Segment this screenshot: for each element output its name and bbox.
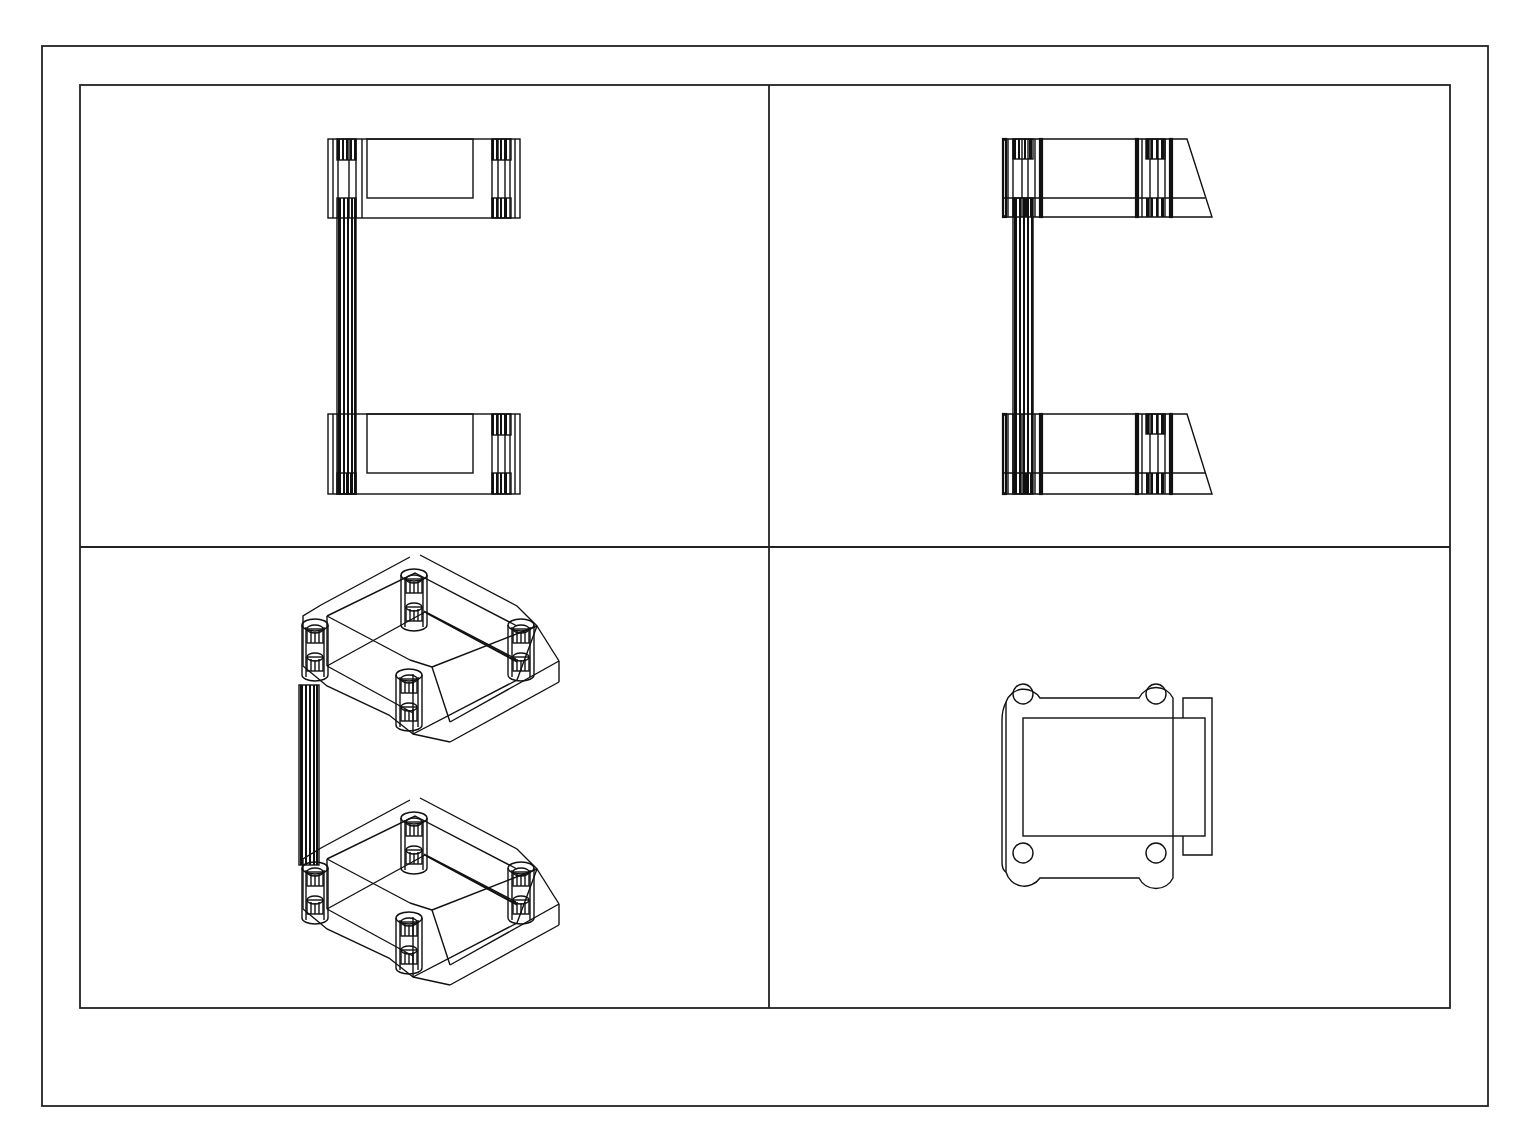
viewport-side-view — [1002, 684, 1212, 889]
viewport-top-view — [328, 139, 520, 494]
iso-lower-flange — [302, 798, 559, 985]
viewport-front-view — [1003, 139, 1212, 494]
cad-drawing-sheet — [0, 0, 1526, 1140]
viewport-isometric-view — [299, 555, 559, 985]
outer-frame — [42, 46, 1488, 1106]
iso-upper-flange — [302, 555, 559, 742]
